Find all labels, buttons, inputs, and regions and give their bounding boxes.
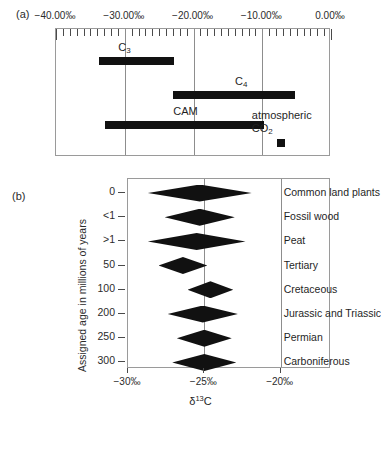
panel-a-bar-label-c4: C4 xyxy=(235,75,247,89)
panel-b-y-tick-mark xyxy=(118,265,125,266)
panel-b-label: (b) xyxy=(12,190,25,202)
panel-a-minor-tick xyxy=(324,29,325,36)
panel-a-minor-tick xyxy=(63,29,64,36)
panel-a-plot-area: C3C4CAMatmosphericCO2 xyxy=(55,28,330,156)
panel-a-minor-tick xyxy=(207,29,208,36)
panel-b-diamond-marker xyxy=(168,306,238,323)
panel-a-minor-tick xyxy=(84,29,85,36)
panel-a-bar-cam xyxy=(105,121,264,129)
panel-a-minor-tick xyxy=(173,29,174,36)
atmospheric-co2-marker xyxy=(277,139,285,147)
panel-a-tick-label: 0.00‰ xyxy=(304,10,356,21)
panel-b-x-tick-mark xyxy=(127,368,128,373)
panel-a-tick-label: −10.00‰ xyxy=(235,10,287,21)
panel-b-diamond-marker xyxy=(188,281,234,298)
panel-b-diamond-marker xyxy=(148,233,246,250)
panel-a-minor-tick xyxy=(290,29,291,36)
panel-a-minor-tick xyxy=(187,29,188,36)
panel-a-minor-tick xyxy=(180,29,181,36)
panel-a-minor-tick xyxy=(221,29,222,36)
panel-b-y-tick-label: <1 xyxy=(79,209,115,221)
panel-b-diamond-marker xyxy=(172,354,236,371)
panel-a-label: (a) xyxy=(16,8,29,20)
panel-a-bar-c3 xyxy=(99,57,175,65)
panel-a-minor-tick xyxy=(118,29,119,36)
panel-a-minor-tick xyxy=(276,29,277,36)
panel-b-y-tick-mark xyxy=(118,240,125,241)
panel-b-row-label: Cretaceous xyxy=(284,283,338,295)
panel-b-x-tick-mark xyxy=(280,368,281,373)
panel-a-minor-tick xyxy=(297,29,298,36)
panel-b-y-tick-mark xyxy=(118,313,125,314)
panel-b-y-tick-mark xyxy=(118,192,125,193)
atmospheric-co2-formula: CO2 xyxy=(252,122,273,136)
panel-a-minor-tick xyxy=(145,29,146,36)
panel-a-minor-tick xyxy=(104,29,105,36)
panel-b-diamond-marker xyxy=(177,330,232,347)
panel-b-diamond-marker xyxy=(159,257,208,274)
panel-a-minor-tick xyxy=(269,29,270,36)
panel-a-tick-label: −30.00‰ xyxy=(98,10,150,21)
panel-a-minor-tick xyxy=(70,29,71,36)
panel-a-minor-tick xyxy=(255,29,256,36)
panel-a-minor-tick xyxy=(249,29,250,36)
panel-a-minor-tick xyxy=(77,29,78,36)
panel-a-minor-tick xyxy=(228,29,229,36)
panel-b-y-tick-label: >1 xyxy=(79,233,115,245)
panel-a-minor-tick xyxy=(152,29,153,36)
panel-b-plot-area: Common land plantsFossil woodPeatTertiar… xyxy=(127,178,330,368)
panel-a-minor-tick xyxy=(159,29,160,36)
panel-b-y-tick-label: 250 xyxy=(79,330,115,342)
panel-b-x-tick-label: −30‰ xyxy=(105,376,149,387)
panel-b-gridline xyxy=(281,179,282,367)
panel-a-bar-label-cam: CAM xyxy=(173,105,197,117)
panel-b-x-tick-label: −20‰ xyxy=(258,376,302,387)
panel-a-minor-tick xyxy=(235,29,236,36)
panel-b-y-tick-mark xyxy=(118,216,125,217)
panel-a-bar-c4 xyxy=(173,91,295,99)
panel-a-major-tick xyxy=(56,29,57,40)
panel-a-minor-tick xyxy=(90,29,91,36)
panel-b-diamond-marker xyxy=(148,185,252,202)
panel-a-minor-tick xyxy=(97,29,98,36)
panel-b-y-tick-mark xyxy=(118,289,125,290)
panel-b-x-tick-mark xyxy=(203,368,204,373)
panel-a-minor-tick xyxy=(310,29,311,36)
panel-a-major-tick xyxy=(331,29,332,40)
panel-a-minor-tick xyxy=(111,29,112,36)
panel-b-x-axis-title: δ13C xyxy=(189,394,211,407)
panel-a-minor-tick xyxy=(283,29,284,36)
panel-b-row-label: Carboniferous xyxy=(284,355,350,367)
panel-b-row-label: Common land plants xyxy=(284,186,380,198)
panel-a-minor-tick xyxy=(214,29,215,36)
panel-a-minor-tick xyxy=(139,29,140,36)
panel-b-y-tick-label: 200 xyxy=(79,306,115,318)
panel-b-row-label: Permian xyxy=(284,331,323,343)
panel-b-y-tick-label: 100 xyxy=(79,282,115,294)
panel-b-row-label: Peat xyxy=(284,234,306,246)
panel-a-minor-tick xyxy=(242,29,243,36)
panel-a-tick-label: −40.00‰ xyxy=(29,10,81,21)
panel-b-diamond-marker xyxy=(165,209,235,226)
panel-a-minor-tick xyxy=(166,29,167,36)
panel-a-tick-label: −20.00‰ xyxy=(167,10,219,21)
panel-a-bar-label-c3: C3 xyxy=(118,41,130,55)
panel-b-y-tick-label: 50 xyxy=(79,258,115,270)
panel-b-y-tick-label: 0 xyxy=(79,185,115,197)
panel-a-minor-tick xyxy=(200,29,201,36)
panel-a-minor-tick xyxy=(304,29,305,36)
panel-b-row-label: Fossil wood xyxy=(284,210,339,222)
panel-a-minor-tick xyxy=(132,29,133,36)
panel-b-y-tick-label: 300 xyxy=(79,354,115,366)
panel-b-y-tick-mark xyxy=(118,361,125,362)
panel-b-row-label: Tertiary xyxy=(284,259,318,271)
panel-a-minor-tick xyxy=(317,29,318,36)
panel-b-y-tick-mark xyxy=(118,337,125,338)
atmospheric-co2-label: atmospheric xyxy=(252,109,312,121)
panel-b-x-tick-label: −25‰ xyxy=(181,376,225,387)
panel-b-row-label: Jurassic and Triassic xyxy=(284,307,381,319)
